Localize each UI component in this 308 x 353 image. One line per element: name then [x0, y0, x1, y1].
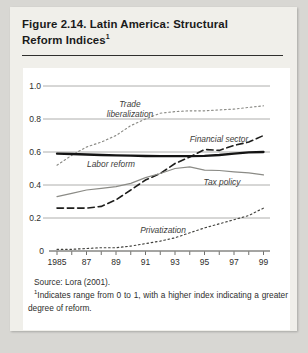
- reform-indices-chart: 1.00.80.60.40.20198587899193959799Tradel…: [23, 68, 290, 270]
- y-tick-label: 0.6: [29, 147, 41, 157]
- footnote-text: 1Indicates range from 0 to 1, with a hig…: [28, 288, 288, 314]
- x-tick-label: 93: [170, 257, 180, 267]
- title-footnote-marker: 1: [106, 33, 110, 40]
- figure-title-line1: Figure 2.14. Latin America: Structural: [22, 17, 285, 32]
- y-tick-label: 0.4: [29, 180, 41, 190]
- chart-panel: 1.00.80.60.40.20198587899193959799Tradel…: [23, 68, 290, 330]
- x-tick-label: 95: [200, 257, 210, 267]
- privatization-label: Privatization: [140, 225, 186, 235]
- figure-title-line2: Reform Indices1: [22, 32, 285, 48]
- figure-title: Figure 2.14. Latin America: StructuralRe…: [10, 7, 297, 54]
- x-tick-label: 1985: [48, 257, 67, 267]
- title-rule: [22, 55, 283, 56]
- financial-sector-label: Financial sector: [190, 134, 250, 144]
- x-tick-label: 97: [229, 257, 239, 267]
- figure-card: Figure 2.14. Latin America: StructuralRe…: [10, 7, 297, 331]
- y-tick-label: 1.0: [29, 81, 41, 91]
- x-tick-label: 91: [141, 257, 151, 267]
- screenshot-root: Figure 2.14. Latin America: StructuralRe…: [0, 0, 308, 353]
- y-tick-label: 0.8: [29, 114, 41, 124]
- source-text: Source: Lora (2001).: [28, 276, 287, 288]
- y-tick-label: 0.2: [29, 213, 41, 223]
- x-tick-label: 87: [82, 257, 92, 267]
- trade-liberalization-label: Tradeliberalization: [107, 99, 154, 119]
- tax-policy-label: Tax policy: [204, 177, 242, 187]
- chart-footer: Source: Lora (2001). 1Indicates range fr…: [23, 276, 290, 314]
- labor-reform-line: [57, 152, 264, 156]
- labor-reform-label: Labor reform: [87, 159, 135, 169]
- x-tick-label: 99: [259, 257, 269, 267]
- y-tick-label: 0: [39, 246, 44, 256]
- x-tick-label: 89: [111, 257, 121, 267]
